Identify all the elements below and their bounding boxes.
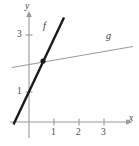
curve-g-line [12, 47, 133, 68]
x-axis [10, 119, 133, 126]
intersection-point-marker [40, 58, 45, 63]
y-axis-label: y [25, 2, 29, 12]
x-axis-label: x [129, 114, 133, 124]
y-axis-arrowhead [26, 11, 32, 17]
y-tick-label-3: 3 [17, 30, 22, 40]
curve-label-f: f [43, 21, 46, 31]
x-tick-label-2: 2 [76, 128, 81, 138]
y-tick-label-1: 1 [17, 87, 22, 97]
function-graph-figure: y x f g 3 1 1 2 3 [0, 0, 139, 146]
plot-area [0, 0, 139, 146]
x-tick-label-1: 1 [51, 128, 56, 138]
y-axis [26, 11, 33, 138]
curve-label-g: g [106, 31, 111, 41]
x-tick-label-3: 3 [101, 128, 106, 138]
